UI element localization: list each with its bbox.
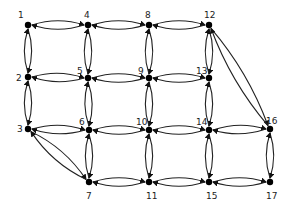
- node-7: [86, 179, 92, 185]
- node-4: [85, 22, 91, 28]
- edge-6-to-3: [32, 129, 85, 134]
- node-label-3: 3: [17, 124, 23, 134]
- edge-17-to-15: [213, 182, 266, 186]
- edge-17-to-16: [266, 133, 270, 178]
- edge-9-to-5: [92, 78, 145, 82]
- edge-14-to-10: [153, 130, 205, 134]
- node-8: [146, 22, 152, 28]
- edge-5-to-4: [84, 29, 88, 74]
- directed-graph-diagram: 1481225913361014167111517: [0, 0, 293, 205]
- node-label-9: 9: [138, 66, 144, 76]
- edge-7-to-11: [93, 178, 145, 182]
- edge-10-to-11: [149, 134, 153, 178]
- edge-9-to-10: [149, 82, 153, 126]
- node-label-6: 6: [79, 117, 85, 127]
- edge-6-to-5: [85, 82, 89, 126]
- edge-1-to-4: [32, 21, 84, 25]
- edge-7-to-6: [85, 134, 89, 178]
- edge-12-to-13: [209, 29, 213, 74]
- node-label-10: 10: [136, 117, 148, 127]
- node-label-2: 2: [16, 73, 22, 83]
- node-5: [85, 75, 91, 81]
- node-label-16: 16: [266, 116, 278, 126]
- edge-3-to-6: [32, 125, 85, 130]
- edge-9-to-8: [145, 29, 149, 74]
- node-14: [206, 127, 212, 133]
- node-label-17: 17: [266, 191, 277, 201]
- node-1: [25, 22, 31, 28]
- edge-8-to-9: [149, 29, 153, 74]
- node-label-8: 8: [145, 10, 151, 20]
- edge-15-to-14: [205, 134, 209, 178]
- edge-11-to-7: [93, 182, 145, 186]
- edge-1-to-2: [28, 29, 32, 73]
- node-label-11: 11: [146, 191, 157, 201]
- node-label-12: 12: [204, 10, 215, 20]
- edge-4-to-1: [32, 25, 84, 29]
- edge-14-to-16: [213, 125, 266, 130]
- edge-3-to-7: [31, 132, 86, 180]
- node-label-5: 5: [77, 66, 83, 76]
- edge-12-to-8: [153, 25, 205, 29]
- edge-10-to-6: [93, 130, 145, 134]
- node-label-7: 7: [86, 191, 92, 201]
- graph-canvas: 1481225913361014167111517: [0, 0, 293, 205]
- node-label-4: 4: [84, 10, 90, 20]
- edge-11-to-10: [145, 134, 149, 178]
- node-label-13: 13: [196, 66, 207, 76]
- edge-4-to-8: [92, 21, 145, 25]
- node-9: [146, 75, 152, 81]
- node-label-14: 14: [196, 117, 208, 127]
- edge-4-to-5: [88, 29, 92, 74]
- edges-layer: [24, 21, 273, 187]
- edge-12-to-16: [211, 28, 268, 125]
- node-12: [206, 22, 212, 28]
- node-10: [146, 127, 152, 133]
- edge-13-to-9: [153, 78, 205, 82]
- edge-16-to-12: [211, 28, 268, 125]
- edge-11-to-15: [153, 178, 205, 182]
- node-label-15: 15: [206, 191, 217, 201]
- edge-8-to-12: [153, 21, 205, 25]
- edge-5-to-2: [32, 77, 84, 82]
- edge-6-to-7: [89, 134, 93, 178]
- edge-8-to-4: [92, 25, 145, 29]
- node-3: [25, 126, 31, 132]
- node-6: [86, 127, 92, 133]
- node-label-1: 1: [18, 10, 24, 20]
- edge-15-to-11: [153, 182, 205, 186]
- edge-13-to-14: [209, 82, 213, 126]
- edge-5-to-6: [88, 82, 92, 126]
- node-16: [267, 126, 273, 132]
- edge-14-to-15: [209, 134, 213, 178]
- edge-7-to-3: [31, 132, 86, 180]
- node-11: [146, 179, 152, 185]
- node-17: [267, 179, 273, 185]
- edge-16-to-17: [270, 133, 274, 178]
- edge-2-to-3: [28, 81, 32, 125]
- edge-16-to-14: [213, 129, 266, 134]
- node-15: [206, 179, 212, 185]
- node-2: [25, 74, 31, 80]
- edge-2-to-1: [24, 29, 28, 73]
- edge-15-to-17: [213, 178, 266, 182]
- edge-3-to-2: [24, 81, 28, 125]
